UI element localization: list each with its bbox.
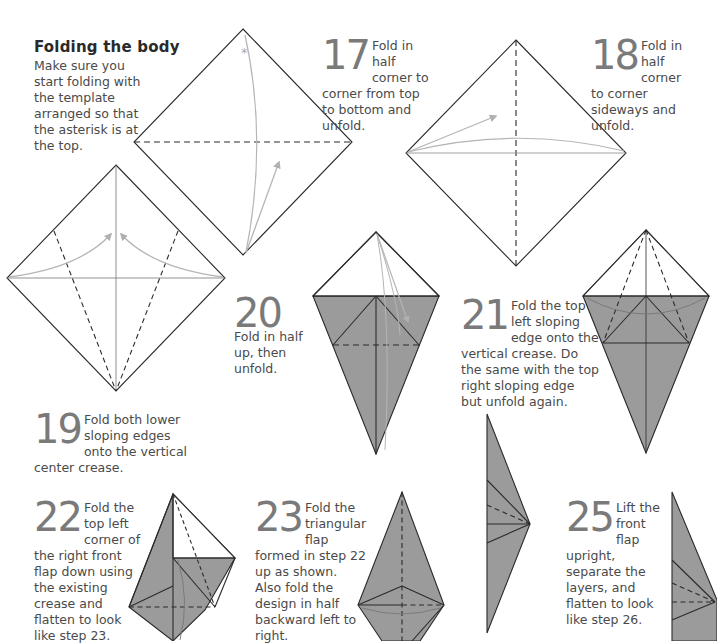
diagram-step-22 [129,494,235,641]
step-text-lead: Fold the triangular flap [305,500,366,547]
asterisk-mark: * [241,45,248,60]
diagram-step-23 [358,492,444,641]
step-number: 18 [591,39,638,71]
step-18-instructions: 18 Fold in half corner to corner sideway… [591,38,696,134]
step-text-rest: upright, separate the layers, and flatte… [566,548,653,627]
step-20-instructions: 20 Fold in half up, then unfold. [234,296,304,377]
step-text-lead: Fold in half corner to [372,38,429,85]
step-text-lead: Lift the front flap [616,500,660,547]
step-25-instructions: 25 Lift the front flap upright, separate… [566,500,666,628]
step-number: 23 [255,501,302,533]
section-title: Folding the body [34,38,180,56]
step-text-lead: Fold both lower sloping edges onto the v… [84,412,187,459]
step-number: 22 [34,501,81,533]
step-21-instructions: 21 Fold the top left sloping edge onto t… [461,298,599,410]
step-text-lead: Fold the top left corner [84,500,134,547]
diagram-step-20 [313,232,439,454]
step-22-instructions: 22 Fold the top left corner of the right… [34,500,142,644]
step-text-rest: corner from top to bottom and unfold. [322,86,420,133]
step-text-rest: corner sideways and unfold. [591,86,676,133]
step-17-instructions: 17 Fold in half corner to corner from to… [322,38,432,134]
diagram-step-21 [583,230,709,453]
step-text-rest: formed in step 22 up as shown. Also fold… [255,548,366,643]
step-number: 19 [34,413,81,445]
step-text-lead: Fold the top left sloping [511,298,586,329]
step-number: 17 [322,39,369,71]
step-23-instructions: 23 Fold the triangular flap formed in st… [255,500,367,644]
step-text-rest: of the right front flap down using the e… [34,532,140,643]
diagram-step-24 [487,414,530,633]
step-text-rest: edge onto the vertical crease. Do the sa… [461,330,599,409]
step-number: 25 [566,501,613,533]
diagram-step-26 [672,492,717,641]
section-intro: Make sure you start folding with the tem… [34,58,146,154]
step-19-instructions: 19 Fold both lower sloping edges onto th… [34,412,194,476]
step-text-rest: center crease. [34,460,123,475]
step-number: 20 [234,297,281,329]
step-number: 21 [461,299,508,331]
